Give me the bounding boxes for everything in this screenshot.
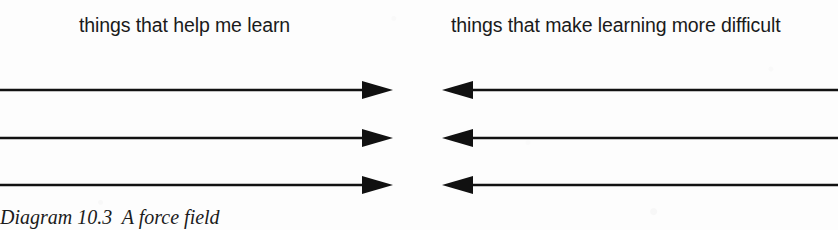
force-pair-row xyxy=(0,175,838,195)
right-pointing-arrow-icon xyxy=(0,80,393,100)
force-pair-row xyxy=(0,80,838,100)
column-heading-hindering-forces: things that make learning more difficult xyxy=(451,13,780,37)
force-field-diagram: things that help me learn things that ma… xyxy=(0,0,838,230)
left-pointing-arrow-icon xyxy=(442,128,838,148)
left-pointing-arrow-icon xyxy=(442,175,838,195)
right-pointing-arrow-icon xyxy=(0,175,393,195)
figure-caption: Diagram 10.3 A force field xyxy=(0,205,220,229)
left-pointing-arrow-icon xyxy=(442,80,838,100)
right-pointing-arrow-icon xyxy=(0,128,393,148)
force-pair-row xyxy=(0,128,838,148)
column-heading-helping-forces: things that help me learn xyxy=(79,13,290,37)
